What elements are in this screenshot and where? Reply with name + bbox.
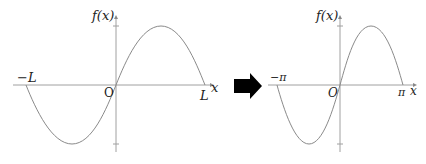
left-x-axis-label: x bbox=[211, 80, 219, 95]
right-origin-label: O bbox=[328, 86, 338, 100]
left-plot: f(x) x O −L L bbox=[13, 8, 219, 152]
left-pos-label: L bbox=[199, 88, 209, 103]
right-y-axis-label: f(x) bbox=[315, 8, 338, 23]
right-plot: f(x) x O −π π bbox=[268, 8, 417, 152]
left-neg-label: −L bbox=[17, 70, 37, 85]
diagram-canvas: f(x) x O −L L f(x) x O −π π bbox=[0, 0, 426, 164]
right-pos-label: π bbox=[397, 86, 406, 99]
right-y-axis-arrowhead bbox=[338, 15, 342, 19]
right-arrow-icon bbox=[234, 73, 262, 99]
left-y-axis-label: f(x) bbox=[91, 8, 114, 23]
left-origin-label: O bbox=[104, 86, 114, 100]
left-y-axis-arrowhead bbox=[114, 15, 118, 19]
right-neg-label: −π bbox=[270, 71, 287, 84]
right-x-axis-label: x bbox=[410, 84, 417, 98]
